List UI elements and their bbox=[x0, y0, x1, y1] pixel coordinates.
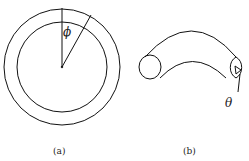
phi-label: ϕ bbox=[63, 25, 71, 39]
tube-inner-arc bbox=[160, 62, 226, 79]
caption-b: (b) bbox=[183, 146, 196, 156]
theta-label: θ bbox=[225, 96, 232, 110]
tube-outer-arc bbox=[145, 31, 236, 57]
tube-left-end-circle bbox=[139, 55, 161, 79]
caption-a: (a) bbox=[53, 146, 65, 156]
angled-radius-line bbox=[62, 15, 91, 67]
center-point bbox=[61, 66, 63, 68]
panel-a-drawing bbox=[4, 8, 120, 125]
panel-b-drawing bbox=[139, 31, 242, 92]
theta-wedge-mark bbox=[235, 66, 241, 74]
figure-canvas bbox=[0, 0, 249, 161]
